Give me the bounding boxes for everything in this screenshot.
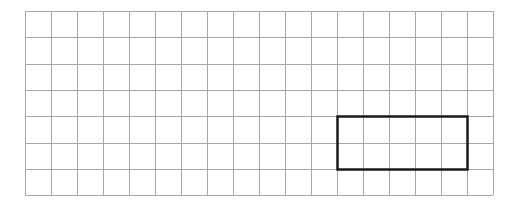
grid-lines	[25, 11, 494, 196]
grid-diagram	[0, 0, 511, 210]
